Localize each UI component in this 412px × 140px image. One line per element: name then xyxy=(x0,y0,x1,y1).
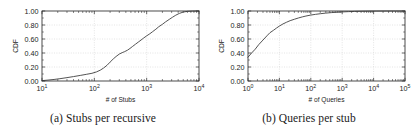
svg-text:102: 102 xyxy=(89,83,100,93)
caption-panel-a: (a) Stubs per recursive xyxy=(0,112,206,124)
svg-text:103: 103 xyxy=(337,83,348,93)
svg-text:0.20: 0.20 xyxy=(25,63,39,72)
svg-text:CDF: CDF xyxy=(12,39,19,53)
figure-container: 0.000.200.400.600.801.00101102103104# of… xyxy=(0,0,412,140)
svg-text:1.00: 1.00 xyxy=(25,7,39,16)
svg-text:102: 102 xyxy=(305,83,316,93)
svg-text:# of Queries: # of Queries xyxy=(309,96,346,104)
svg-text:101: 101 xyxy=(37,83,48,93)
svg-text:0.80: 0.80 xyxy=(25,21,39,30)
svg-text:0.80: 0.80 xyxy=(231,21,245,30)
svg-text:0.40: 0.40 xyxy=(231,49,245,58)
svg-text:104: 104 xyxy=(368,83,379,93)
svg-text:103: 103 xyxy=(141,83,152,93)
svg-text:0.60: 0.60 xyxy=(231,35,245,44)
svg-text:# of Stubs: # of Stubs xyxy=(106,96,136,103)
panel-queries-per-stub: 0.000.200.400.600.801.001001011021031041… xyxy=(206,0,412,140)
svg-text:1.00: 1.00 xyxy=(231,7,245,16)
panel-stubs-per-recursive: 0.000.200.400.600.801.00101102103104# of… xyxy=(0,0,206,140)
svg-text:0.40: 0.40 xyxy=(25,49,39,58)
svg-text:100: 100 xyxy=(243,83,254,93)
chart-queries-per-stub: 0.000.200.400.600.801.001001011021031041… xyxy=(206,0,412,112)
svg-text:105: 105 xyxy=(400,83,411,93)
svg-text:101: 101 xyxy=(274,83,285,93)
svg-text:CDF: CDF xyxy=(218,39,225,53)
svg-text:0.20: 0.20 xyxy=(231,63,245,72)
chart-stubs-per-recursive: 0.000.200.400.600.801.00101102103104# of… xyxy=(0,0,206,112)
caption-panel-b: (b) Queries per stub xyxy=(206,112,412,124)
svg-text:0.60: 0.60 xyxy=(25,35,39,44)
svg-text:104: 104 xyxy=(194,83,205,93)
